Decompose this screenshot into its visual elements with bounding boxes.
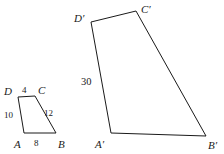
vertex-label-D: D	[4, 86, 12, 97]
figure-canvas	[0, 0, 224, 154]
vertex-label-A: A	[14, 139, 21, 150]
side-label-CD: 4	[22, 86, 27, 95]
vertex-label-B-prime: B′	[208, 140, 217, 151]
side-label-BC: 12	[44, 109, 53, 118]
side-label-D-prime-A-prime: 30	[81, 77, 92, 88]
vertex-label-B: B	[58, 139, 65, 150]
vertex-label-A-prime: A′	[95, 139, 104, 150]
large-quadrilateral-shape	[91, 11, 206, 136]
geometry-figure: D C A B 4 12 10 8 D′ C′ A′ B′ 30	[0, 0, 224, 154]
side-label-DA: 10	[4, 111, 13, 120]
side-label-AB: 8	[34, 139, 39, 148]
vertex-label-C-prime: C′	[141, 4, 151, 15]
vertex-label-D-prime: D′	[74, 13, 84, 24]
vertex-label-C: C	[38, 85, 45, 96]
